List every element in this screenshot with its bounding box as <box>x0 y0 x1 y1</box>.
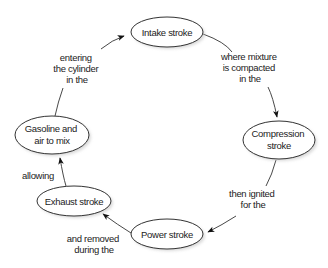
edge-gasoline-to-intake-line <box>55 88 63 116</box>
concept-map-diagram: where mixture is compacted in the then i… <box>0 0 328 268</box>
edge-label-compression-power: then ignited for the <box>229 188 277 210</box>
node-compression-stroke: Compression stroke <box>243 121 317 161</box>
edge-label-exhaust-gasoline: allowing <box>22 170 54 181</box>
edge-gasoline-to-intake-arrow-line <box>101 36 124 49</box>
node-intake-stroke-label: Intake stroke <box>142 27 193 38</box>
edge-exhaust-to-gasoline-line <box>60 158 66 186</box>
node-power-stroke: Power stroke <box>131 219 205 251</box>
edge-label-gasoline-intake: entering the cylinder in the <box>53 52 100 85</box>
node-gasoline-air-mix: Gasoline and air to mix <box>15 116 91 156</box>
node-exhaust-stroke: Exhaust stroke <box>37 186 113 218</box>
edge-label-power-exhaust: and removed during the <box>67 233 122 255</box>
edge-intake-to-compression-line <box>203 34 232 52</box>
node-intake-stroke: Intake stroke <box>131 17 205 49</box>
edge-compression-to-power-line <box>266 160 276 186</box>
edge-compression-to-power-arrow-line <box>208 216 236 232</box>
edge-power-to-exhaust-line <box>103 214 131 233</box>
node-power-stroke-label: Power stroke <box>141 229 193 240</box>
node-exhaust-stroke-label: Exhaust stroke <box>45 196 104 207</box>
edge-label-intake-compression: where mixture is compacted in the <box>220 51 279 84</box>
edge-intake-to-compression-arrow-line <box>268 87 277 117</box>
